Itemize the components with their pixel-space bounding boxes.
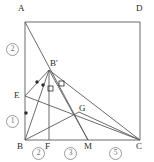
- tick-on-EBp-1: [35, 80, 38, 83]
- point-label-D: D: [136, 4, 143, 13]
- circled-1-left: 1: [6, 115, 19, 128]
- circled-2-bottom: 2: [32, 147, 45, 160]
- circled-2-left: 2: [6, 43, 19, 56]
- point-label-F: F: [45, 142, 50, 151]
- point-label-G: G: [79, 104, 86, 113]
- circled-3-bottom: 3: [64, 147, 77, 160]
- point-label-M: M: [84, 142, 92, 151]
- tick-on-EBp-2: [41, 83, 44, 86]
- point-label-E: E: [14, 91, 20, 100]
- point-label-B: B: [17, 142, 23, 151]
- point-label-Bp: B': [50, 59, 58, 68]
- right-angle-right: [59, 81, 64, 86]
- point-label-C: C: [136, 142, 142, 151]
- Bp-to-C: [49, 70, 140, 140]
- circled-5-bottom: 5: [109, 147, 122, 160]
- tick-on-EB: [24, 111, 27, 114]
- point-label-A: A: [18, 4, 25, 13]
- geometry-figure: [0, 0, 154, 162]
